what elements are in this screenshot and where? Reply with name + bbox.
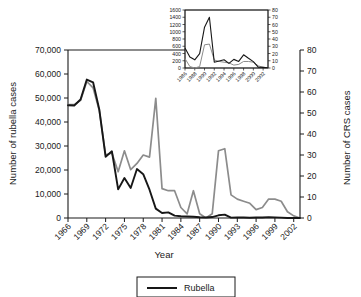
svg-text:10: 10 [307,192,317,202]
svg-text:40: 40 [272,36,278,42]
legend-label-rubella: Rubella [184,283,215,293]
svg-text:0: 0 [307,213,312,223]
y-axis-title: Number of rubella cases [7,82,18,185]
svg-text:800: 800 [172,36,181,42]
svg-text:70: 70 [307,66,317,76]
svg-text:10,000: 10,000 [35,189,61,199]
svg-text:30: 30 [307,150,317,160]
svg-text:40: 40 [307,129,317,139]
svg-text:70: 70 [272,14,278,20]
svg-text:200: 200 [172,58,181,64]
svg-text:10: 10 [272,58,278,64]
svg-text:60: 60 [307,87,317,97]
svg-text:50,000: 50,000 [35,93,61,103]
svg-text:1000: 1000 [169,29,181,35]
svg-text:0: 0 [56,213,61,223]
rubella-crs-chart-figure: Number of rubella cases Number of CRS ca… [0,0,361,297]
svg-text:20: 20 [307,171,317,181]
svg-text:70,000: 70,000 [35,45,61,55]
svg-text:1200: 1200 [169,22,181,28]
svg-text:20: 20 [272,51,278,57]
svg-text:0: 0 [178,65,181,71]
x-axis-title: Year [154,249,173,260]
legend: Rubella [137,277,235,297]
svg-text:1400: 1400 [169,14,181,20]
svg-text:30,000: 30,000 [35,141,61,151]
inset-frame [185,10,268,68]
svg-text:600: 600 [172,43,181,49]
svg-text:0: 0 [272,65,275,71]
svg-text:20,000: 20,000 [35,165,61,175]
svg-text:80: 80 [307,45,317,55]
svg-text:30: 30 [272,43,278,49]
y2-axis-title: Number of CRS cases [341,90,352,185]
svg-text:60,000: 60,000 [35,69,61,79]
svg-text:400: 400 [172,51,181,57]
svg-text:1600: 1600 [169,7,181,13]
svg-text:40,000: 40,000 [35,117,61,127]
svg-text:60: 60 [272,22,278,28]
svg-text:80: 80 [272,7,278,13]
svg-text:50: 50 [272,29,278,35]
svg-text:50: 50 [307,108,317,118]
